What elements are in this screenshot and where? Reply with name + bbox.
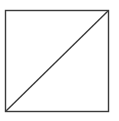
diagram-canvas [0,0,119,121]
diagonal-line [6,11,109,112]
